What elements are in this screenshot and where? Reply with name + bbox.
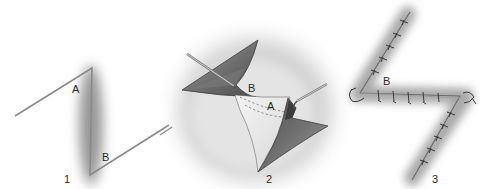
panel-number-2: 2 — [266, 173, 272, 185]
flap-label-b: B — [102, 151, 109, 163]
panel-1: A B 1 — [15, 65, 169, 185]
panel-2: B A 2 — [160, 38, 333, 185]
z-plasty-diagram: A B 1 B A 2 — [0, 0, 495, 189]
panel-number-1: 1 — [64, 173, 70, 185]
panel-3: B 3 — [350, 12, 477, 185]
flap-label-b-2: B — [248, 82, 255, 94]
flap-label-a: A — [72, 83, 80, 95]
flap-label-a-2: A — [267, 100, 275, 112]
panel-number-3: 3 — [432, 173, 438, 185]
flap-label-b-3: B — [383, 75, 390, 87]
